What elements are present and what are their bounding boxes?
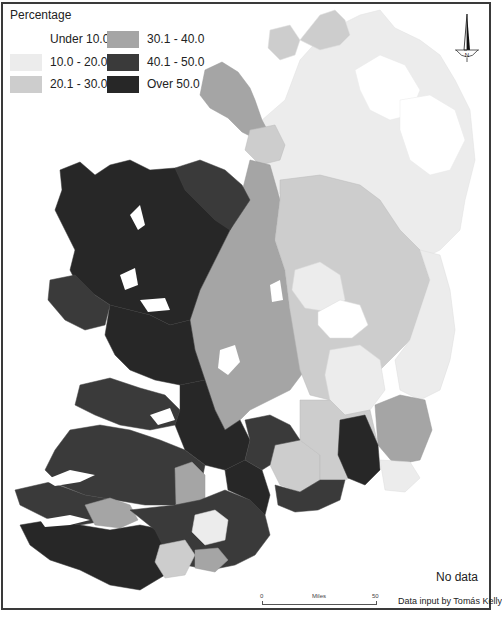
legend-swatch — [107, 31, 139, 48]
scale-start: 0 — [260, 593, 263, 599]
scale-tick — [376, 601, 377, 605]
scale-end: 50 — [372, 593, 379, 599]
legend-title: Percentage — [10, 8, 71, 22]
legend-label: 40.1 - 50.0 — [147, 55, 204, 69]
scale-line — [262, 604, 376, 605]
legend-label: Under 10.0 — [50, 32, 109, 46]
north-label: N — [465, 52, 469, 58]
region-kerry-south[interactable] — [20, 520, 175, 590]
legend-label: 10.0 - 20.0 — [50, 55, 107, 69]
north-arrow-icon: N — [454, 12, 480, 62]
legend-item-20-30: 20.1 - 30.0 — [10, 75, 107, 93]
no-data-label: No data — [436, 570, 478, 584]
legend-item-40-50: 40.1 - 50.0 — [107, 53, 204, 71]
region-inishowen[interactable] — [268, 25, 300, 60]
ireland-regions — [15, 10, 475, 590]
legend-swatch — [10, 76, 42, 93]
scale-tick — [262, 601, 263, 605]
scale-bar: 0 Miles 50 — [260, 593, 378, 607]
legend-label: 30.1 - 40.0 — [147, 32, 204, 46]
legend-label: 20.1 - 30.0 — [50, 77, 107, 91]
legend-item-10-20: 10.0 - 20.0 — [10, 53, 107, 71]
legend-item-under-10: Under 10.0 — [10, 30, 109, 48]
legend-item-over-50: Over 50.0 — [107, 75, 200, 93]
scale-unit: Miles — [312, 593, 326, 599]
region-wexford[interactable] — [375, 395, 432, 465]
legend-label: Over 50.0 — [147, 77, 200, 91]
legend-swatch — [10, 54, 42, 71]
legend-swatch — [107, 76, 139, 93]
credit-text: Data input by Tomás Kelly — [398, 596, 502, 606]
legend-swatch — [107, 54, 139, 71]
legend-swatch — [10, 31, 42, 48]
legend-item-30-40: 30.1 - 40.0 — [107, 30, 204, 48]
region-southeast-light[interactable] — [380, 460, 420, 492]
